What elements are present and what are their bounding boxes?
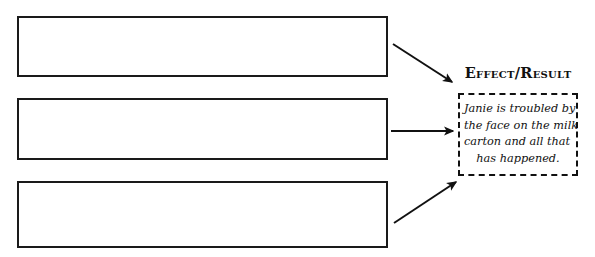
effect-text-line-3: carton and all that — [463, 134, 573, 151]
effect-text-line-2: the face on the milk — [463, 118, 573, 135]
effect-text-line-1: Janie is troubled by — [463, 101, 573, 118]
effect-result-text: Janie is troubled by the face on the mil… — [460, 101, 576, 167]
graphic-organizer-canvas: Effect/Result Janie is troubled by the f… — [0, 0, 595, 257]
effect-result-box[interactable]: Janie is troubled by the face on the mil… — [458, 93, 578, 176]
effect-result-heading: Effect/Result — [452, 64, 584, 81]
effect-text-line-4: has happened. — [463, 151, 573, 168]
arrow-cause1-to-effect — [393, 44, 452, 82]
arrow-cause3-to-effect — [394, 182, 456, 223]
